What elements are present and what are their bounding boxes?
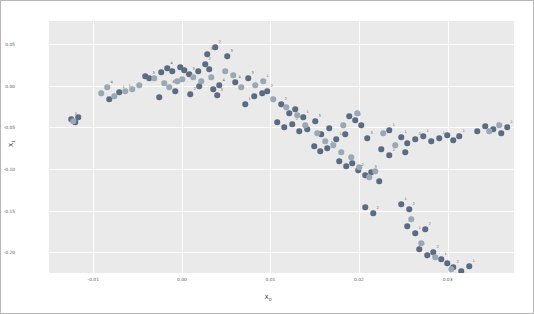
scatter-point: [404, 223, 410, 229]
scatter-point: [274, 119, 280, 125]
scatter-point: [222, 68, 228, 74]
scatter-point: [210, 86, 216, 92]
scatter-point: [466, 263, 472, 269]
scatter-point: [352, 117, 358, 123]
y-axis-label-main: X: [7, 143, 14, 147]
scatter-point: [208, 74, 214, 80]
scatter-point: [358, 122, 364, 128]
gridline-vertical: [270, 21, 271, 273]
scatter-point: [75, 114, 81, 120]
scatter-point: [251, 93, 257, 99]
scatter-point: [317, 148, 323, 154]
gridline-vertical: [182, 21, 183, 273]
scatter-point: [294, 112, 300, 118]
scatter-point: [422, 226, 428, 232]
point-annotation: 1: [392, 124, 394, 128]
scatter-point: [448, 266, 454, 272]
scatter-point: [412, 136, 418, 142]
point-annotation: 1: [306, 111, 308, 115]
point-annotation: 3: [251, 72, 253, 76]
scatter-point: [376, 178, 382, 184]
scatter-point: [314, 130, 320, 136]
x-tick-label: 0.03: [428, 277, 468, 282]
scatter-point: [283, 104, 289, 110]
gridline-vertical: [359, 21, 360, 273]
scatter-point: [98, 90, 104, 96]
point-annotation: 3: [230, 50, 232, 54]
scatter-point: [364, 135, 370, 141]
x-tick-label: 0.00: [162, 277, 202, 282]
scatter-point: [404, 140, 410, 146]
y-tick-label: 0.00: [0, 83, 15, 88]
scatter-point: [386, 127, 392, 133]
scatter-point: [311, 143, 317, 149]
scatter-plot-figure: 2313432233243432121231223123112111112121…: [0, 0, 534, 314]
y-axis-label-sub: 1: [11, 140, 16, 143]
scatter-point: [292, 106, 298, 112]
point-annotation: 4: [110, 81, 112, 85]
x-tick-label: 0.02: [339, 277, 379, 282]
point-annotation: 2: [436, 246, 438, 250]
point-annotation: 4: [170, 62, 172, 66]
scatter-point: [343, 163, 349, 169]
scatter-point: [408, 216, 414, 222]
scatter-point: [424, 252, 430, 258]
scatter-point: [348, 154, 354, 160]
point-annotation: 1: [418, 227, 420, 231]
point-annotation: 4: [185, 73, 187, 77]
point-annotation: 1: [404, 198, 406, 202]
scatter-point: [172, 88, 178, 94]
scatter-point: [224, 53, 230, 59]
scatter-point: [420, 133, 426, 139]
scatter-point: [340, 122, 346, 128]
scatter-point: [300, 114, 306, 120]
x-axis-label-sub: 0: [269, 297, 272, 302]
point-annotation: 2: [376, 207, 378, 211]
scatter-point: [232, 79, 238, 85]
scatter-point: [270, 96, 276, 102]
scatter-point: [322, 138, 328, 144]
scatter-point: [196, 83, 202, 89]
gridline-horizontal: [49, 86, 514, 87]
scatter-point: [252, 82, 258, 88]
scatter-point: [456, 133, 462, 139]
gridline-horizontal: [49, 44, 514, 45]
scatter-point: [238, 84, 244, 90]
scatter-point: [436, 135, 442, 141]
scatter-point: [458, 268, 464, 273]
scatter-point: [158, 69, 164, 75]
plot-area: 2313432233243432121231223123112111112121…: [49, 21, 514, 273]
scatter-point: [111, 93, 117, 99]
scatter-point: [260, 78, 266, 84]
x-tick-label: -0.01: [73, 277, 113, 282]
scatter-point: [312, 118, 318, 124]
y-tick-label: -0.15: [0, 208, 15, 213]
y-tick-label: -0.20: [0, 250, 15, 255]
gridline-horizontal: [49, 211, 514, 212]
point-annotation: 2: [295, 118, 297, 122]
point-annotation: 4: [222, 79, 224, 83]
point-annotation: 3: [318, 115, 320, 119]
scatter-point: [416, 246, 422, 252]
y-axis-label: X1: [7, 140, 16, 147]
scatter-point: [151, 75, 157, 81]
scatter-point: [122, 88, 128, 94]
scatter-point: [296, 128, 302, 134]
scatter-point: [242, 101, 248, 107]
scatter-point: [504, 124, 510, 130]
scatter-point: [70, 118, 76, 124]
scatter-point: [438, 256, 444, 262]
point-annotation: 1: [462, 130, 464, 134]
scatter-point: [289, 121, 295, 127]
point-annotation: 2: [208, 58, 210, 62]
point-annotation: 1: [392, 149, 394, 153]
point-annotation: 2: [284, 98, 286, 102]
x-tick-label: 0.01: [250, 277, 290, 282]
x-axis-label: X0: [1, 293, 534, 302]
point-annotation: 1: [444, 253, 446, 257]
scatter-point: [179, 76, 185, 82]
point-annotation: 2: [456, 261, 458, 265]
scatter-point: [362, 204, 368, 210]
point-annotation: 1: [510, 121, 512, 125]
scatter-point: [281, 124, 287, 130]
